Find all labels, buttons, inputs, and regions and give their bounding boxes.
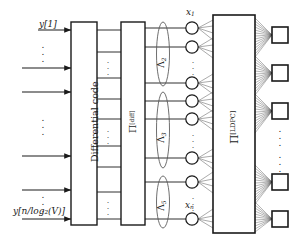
block-label-pi-diff: Π[diff]: [128, 97, 138, 147]
check-node: [272, 211, 288, 227]
input-label-top: y[1]: [39, 20, 57, 29]
variable-node: [186, 77, 198, 89]
varnode-ellipsis-1: ...: [189, 58, 197, 77]
mid-ellipsis-3: ...: [104, 198, 112, 217]
input-ellipsis-2: ...: [39, 115, 47, 136]
input-ellipsis-3: ...: [39, 192, 47, 213]
check-node: [272, 103, 288, 119]
block-label-differential-code: Differential code: [90, 47, 100, 197]
varnode-ellipsis-3: ...: [189, 194, 197, 213]
lambda-2-label: Λ2: [157, 52, 166, 74]
variable-node: [186, 113, 198, 125]
input-ellipsis-1: ...: [39, 42, 47, 63]
lambda-3-label: Λ3: [157, 127, 166, 149]
variable-node: [186, 152, 198, 164]
checknode-ellipsis-2: ...: [276, 152, 284, 173]
checknode-ellipsis-1: ...: [276, 126, 284, 147]
variable-node: [186, 95, 198, 107]
edges-varnodes-to-ldpc: [198, 20, 213, 228]
varnode-ellipsis-2: ...: [189, 131, 197, 150]
check-node: [272, 65, 288, 81]
variable-node: [186, 176, 198, 188]
variable-node-label-first: x1: [186, 8, 195, 17]
mid-ellipsis-2: ...: [104, 127, 112, 146]
figure-canvas: y[1] y[n/log₂(V)] ... ... ... Differenti…: [0, 0, 308, 249]
block-label-pi-ldpc: Π[LDPC]: [229, 97, 240, 157]
check-node: [272, 174, 288, 190]
check-node: [272, 27, 288, 43]
mid-ellipsis-1: ...: [104, 58, 112, 77]
variable-node: [186, 41, 198, 53]
edges-ldpc-to-checknodes: [255, 18, 272, 232]
lambda-5-label: Λ5: [157, 195, 166, 217]
variable-node: [186, 213, 198, 225]
variable-node: [186, 22, 198, 34]
